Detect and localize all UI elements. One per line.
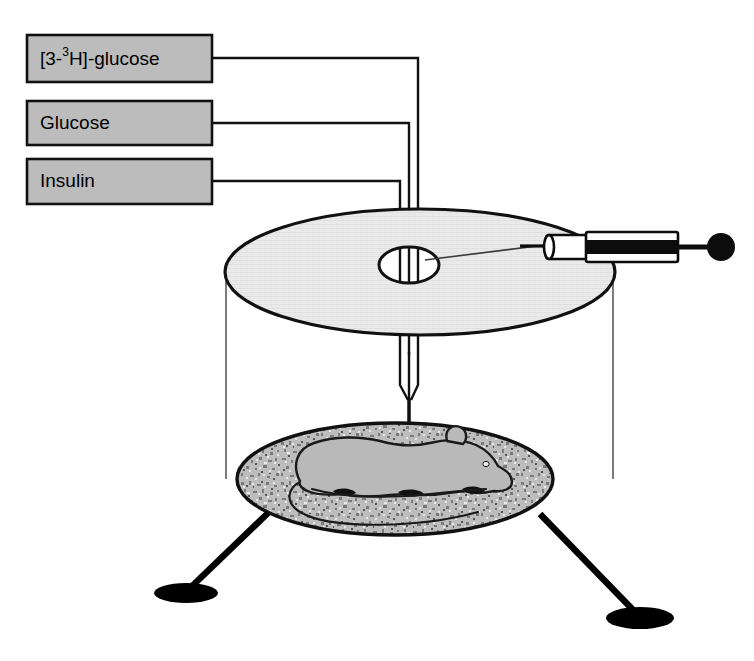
reagent-label-tracer: [3-3H]-glucose [40,45,160,69]
reagent-box-glucose[interactable]: Glucose [27,101,212,145]
reagent-box-insulin[interactable]: Insulin [27,159,212,204]
reagent-label-glucose: Glucose [40,112,110,133]
syringe-plunger-knob [707,233,735,261]
tracer-prefix: [3- [40,48,62,69]
syringe-barrel-fluid [588,241,676,253]
infusion-apparatus-diagram: [3-3H]-glucose Glucose Insulin [0,0,754,661]
reagent-label-boxes: [3-3H]-glucose Glucose Insulin [27,35,212,204]
top-platform [225,209,615,335]
mouse-eye [483,461,489,466]
leg-right [540,514,637,614]
reagent-box-tracer[interactable]: [3-3H]-glucose [27,35,212,82]
syringe-ferrule-cap [544,235,554,259]
reagent-label-insulin: Insulin [40,170,95,191]
figure-root: [3-3H]-glucose Glucose Insulin [0,0,754,661]
mouse-body [296,437,512,496]
foot-right [606,607,674,629]
mouse-ear [446,426,466,444]
tracer-suffix: H]-glucose [69,48,160,69]
leg-left [188,513,268,590]
foot-left [154,583,218,603]
